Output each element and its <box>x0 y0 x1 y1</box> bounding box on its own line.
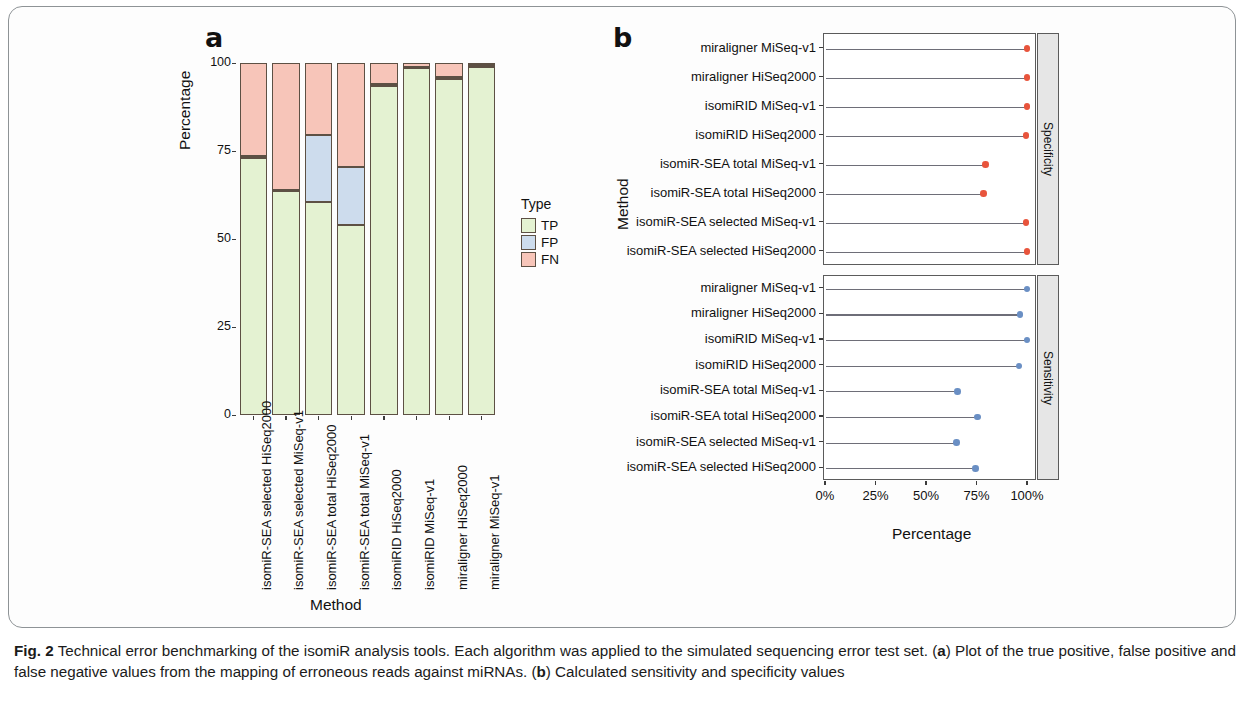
panel-b-y-tick-label: isomiR-SEA selected HiSeq2000 <box>627 243 816 258</box>
bar-segment-fn <box>403 63 430 67</box>
panel-a-x-tickmark <box>416 416 417 420</box>
bar-segment-fn <box>435 63 462 77</box>
legend-title: Type <box>521 196 559 212</box>
bar-segment-fn <box>305 63 332 135</box>
panel-a-y-tick-25: 25 <box>217 319 231 333</box>
panel-b-y-tick-label: isomiR-SEA selected HiSeq2000 <box>627 459 816 474</box>
panel-a-x-tick-label: isomiR-SEA selected HiSeq2000 <box>259 401 274 590</box>
panel-b-y-tick-label: isomiR-SEA selected MiSeq-v1 <box>636 214 816 229</box>
legend-items: TPFPFN <box>521 217 559 268</box>
panel-a-y-tickmark <box>232 327 236 328</box>
legend-swatch-fn <box>521 252 536 267</box>
panel-b-y-tick-label: miraligner HiSeq2000 <box>691 69 816 84</box>
lollipop-dot <box>1017 311 1024 318</box>
figure-caption: Fig. 2 Technical error benchmarking of t… <box>14 640 1236 682</box>
panel-a-x-tick-label: isomiRID MiSeq-v1 <box>422 479 437 590</box>
facet-strip-label: Specificity <box>1041 122 1055 176</box>
panel-a-x-tick-label: isomiR-SEA selected MiSeq-v1 <box>291 410 306 590</box>
panel-b-x-tick-75pct: 75% <box>963 488 989 503</box>
lollipop-stem <box>826 165 986 166</box>
panel-a-stacked-bar-chart: a Percentage Method 0255075100 isomiR-SE… <box>0 0 600 622</box>
lollipop-stem <box>826 366 1019 367</box>
bar-miraligner-hiseq2000 <box>435 63 462 415</box>
bar-miraligner-miseq-v1 <box>468 63 495 415</box>
lollipop-dot <box>972 465 979 472</box>
legend-label-tp: TP <box>541 218 558 233</box>
legend-swatch-fp <box>521 235 536 250</box>
panel-b-x-tickmark <box>1026 481 1027 485</box>
panel-b-x-tickmark <box>925 481 926 485</box>
lollipop-dot <box>1024 45 1031 52</box>
lollipop-dot <box>974 414 981 421</box>
lollipop-dot <box>1016 363 1023 370</box>
panel-a-x-tickmark <box>318 416 319 420</box>
panel-a-y-axis-label: Percentage <box>176 71 194 150</box>
facet-strip-label: Sensitivity <box>1041 350 1055 404</box>
bar-isomirid-miseq-v1 <box>403 63 430 415</box>
lollipop-stem <box>826 107 1027 108</box>
panel-b-y-tick-label: isomiRID HiSeq2000 <box>695 357 816 372</box>
bar-segment-tp <box>370 86 397 415</box>
bar-isomir-sea-total-hiseq2000 <box>305 63 332 415</box>
panel-b-y-tick-label: isomiRID MiSeq-v1 <box>705 98 816 113</box>
lollipop-stem <box>826 136 1026 137</box>
caption-marker-a: a <box>937 642 945 659</box>
lollipop-stem <box>826 443 956 444</box>
panel-a-y-tick-50: 50 <box>217 231 231 245</box>
bar-isomir-sea-selected-miseq-v1 <box>272 63 299 415</box>
bar-segment-fn <box>468 63 495 65</box>
facet-specificity <box>823 33 1036 265</box>
caption-sentence-3: ) Calculated sensitivity and specificity… <box>546 663 845 680</box>
legend-swatch-tp <box>521 218 536 233</box>
bar-segment-fp <box>435 77 462 79</box>
bar-segment-fn <box>240 63 267 156</box>
panel-a-x-tickmark <box>481 416 482 420</box>
panel-b-y-tick-label: miraligner MiSeq-v1 <box>700 280 816 295</box>
panel-a-x-tick-label: miraligner MiSeq-v1 <box>487 474 502 590</box>
lollipop-dot <box>1024 103 1031 110</box>
lollipop-stem <box>826 78 1027 79</box>
bar-segment-tp <box>305 202 332 415</box>
bar-segment-tp <box>468 67 495 415</box>
bar-segment-tp <box>435 79 462 415</box>
panel-b-x-axis-label: Percentage <box>892 525 971 543</box>
bar-segment-fp <box>403 66 430 68</box>
panel-a-plot-area <box>237 63 498 415</box>
bar-segment-fp <box>468 65 495 67</box>
panel-a-legend: Type TPFPFN <box>521 196 559 268</box>
bar-segment-fn <box>370 63 397 84</box>
facet-strip-sensitivity: Sensitivity <box>1037 275 1059 480</box>
lollipop-stem <box>826 391 957 392</box>
panel-a-letter: a <box>205 22 223 53</box>
lollipop-stem <box>826 340 1027 341</box>
panel-a-y-tick-100: 100 <box>210 55 231 69</box>
facet-sensitivity <box>823 275 1036 480</box>
lollipop-dot <box>1024 286 1031 293</box>
caption-marker-b: b <box>537 663 546 680</box>
bar-segment-fn <box>337 63 364 167</box>
legend-item-fp: FP <box>521 234 559 251</box>
panel-b-x-tick-0pct: 0% <box>816 488 835 503</box>
lollipop-stem <box>826 223 1026 224</box>
panel-a-y-tick-0: 0 <box>224 407 231 421</box>
lollipop-dot <box>953 439 960 446</box>
panel-b-y-tick-label: isomiR-SEA total HiSeq2000 <box>651 185 816 200</box>
lollipop-dot <box>1024 248 1031 255</box>
lollipop-dot <box>1023 132 1030 139</box>
panel-b-y-tick-label: miraligner HiSeq2000 <box>691 305 816 320</box>
caption-sentence-1: Technical error benchmarking of the isom… <box>54 642 938 659</box>
panel-b-y-axis-label: Method <box>614 178 632 230</box>
panel-b-y-tick-label: isomiR-SEA total MiSeq-v1 <box>660 156 816 171</box>
legend-label-fn: FN <box>541 252 559 267</box>
panel-a-y-tickmark <box>232 239 236 240</box>
panel-a-x-tick-label: miraligner HiSeq2000 <box>455 465 470 590</box>
panel-b-y-tick-label: isomiR-SEA total MiSeq-v1 <box>660 382 816 397</box>
legend-item-fn: FN <box>521 251 559 268</box>
bar-segment-fp <box>305 135 332 202</box>
panel-b-letter: b <box>613 22 632 53</box>
bar-segment-tp <box>403 68 430 415</box>
panel-a-y-tickmark <box>232 151 236 152</box>
lollipop-stem <box>826 468 975 469</box>
bar-segment-fn <box>272 63 299 190</box>
panel-b-y-tick-label: isomiRID HiSeq2000 <box>695 127 816 142</box>
